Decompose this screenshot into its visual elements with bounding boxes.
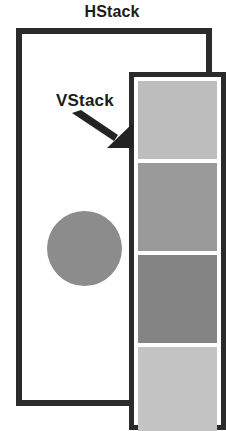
vstack-box-2 [138, 163, 217, 251]
vstack-box-4 [138, 347, 217, 431]
arrow-down-right-icon [70, 110, 136, 148]
page-title: HStack [0, 2, 224, 22]
hstack-frame: VStack [16, 28, 212, 406]
vstack-inner [138, 81, 217, 421]
vstack-box-1 [138, 81, 217, 159]
vstack-annotation-label: VStack [56, 90, 114, 111]
vstack-box-3 [138, 255, 217, 343]
vstack-frame [129, 72, 226, 430]
circle-element [47, 211, 122, 286]
